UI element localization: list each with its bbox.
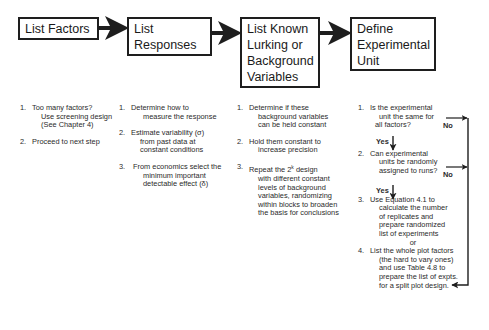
step-text: detectable effect (δ) xyxy=(131,180,234,189)
unit-step-4: 4. List the whole plot factors (the hard… xyxy=(358,247,458,290)
box-experimental-unit: Define Experimental Unit xyxy=(350,17,436,71)
step-number: 3. xyxy=(119,163,125,172)
box-list-responses-line: Responses xyxy=(134,37,205,53)
step-text: can be held constant xyxy=(249,121,357,130)
lurking-steps: 1. Determine if these background variabl… xyxy=(237,104,357,224)
box-list-factors: List Factors xyxy=(18,17,99,40)
step-text: Proceed to next step xyxy=(32,138,120,147)
step-number: 1. xyxy=(358,104,364,113)
step-number: 1. xyxy=(20,104,26,113)
unit-step-3: 3. Use Equation 4.1 to calculate the num… xyxy=(358,196,458,239)
box-lurking-line: Background xyxy=(247,53,313,69)
factors-steps: 1. Too many factors? Use screening desig… xyxy=(20,104,120,152)
no-label-2: No xyxy=(443,171,453,180)
lurking-step-2: 2. Hold them constant to increase precis… xyxy=(237,138,357,155)
responses-step-2: 2. Estimate variability (σ) from past da… xyxy=(119,129,234,155)
step-number: 2. xyxy=(20,138,26,147)
box-unit-line: Unit xyxy=(357,53,429,69)
box-list-responses: List Responses xyxy=(127,17,212,56)
box-list-responses-line: List xyxy=(134,21,205,37)
responses-steps: 1. Determine how to measure the response… xyxy=(119,104,234,195)
no-label-1: No xyxy=(443,122,453,131)
box-lurking-line: Lurking or xyxy=(247,37,313,53)
box-list-factors-label: List Factors xyxy=(25,21,92,38)
step-text: measure the response xyxy=(131,113,234,122)
step-text: for a split plot design. xyxy=(370,282,458,291)
step-text: increase precision xyxy=(249,146,357,155)
box-lurking-line: List Known xyxy=(247,21,313,37)
yes-label-2: Yes xyxy=(376,187,389,196)
factors-step-2: 2. Proceed to next step xyxy=(20,138,120,147)
no-bracket xyxy=(457,118,468,285)
step-text: list of experiments xyxy=(370,230,458,239)
step-number: 2. xyxy=(119,129,125,138)
step-number: 3. xyxy=(237,163,243,172)
responses-step-1: 1. Determine how to measure the response xyxy=(119,104,234,121)
lurking-step-3: 3. Repeat the 2k design with different c… xyxy=(237,163,357,218)
unit-steps: 1. Is the experimental unit the same for… xyxy=(358,104,458,290)
responses-step-3: 3. From economics select the minimum imp… xyxy=(119,163,234,189)
step-text: constant conditions xyxy=(131,146,234,155)
box-lurking-line: Variables xyxy=(247,69,313,85)
step-number: 4. xyxy=(358,247,364,256)
box-lurking-variables: List Known Lurking or Background Variabl… xyxy=(240,17,320,88)
step-number: 2. xyxy=(237,138,243,147)
step-number: 2. xyxy=(358,150,364,159)
step-text: the basis for conclusions xyxy=(249,209,357,218)
step-text: (See Chapter 4) xyxy=(32,121,120,130)
box-unit-line: Define xyxy=(357,21,429,37)
yes-label-1: Yes xyxy=(376,138,389,147)
step-number: 1. xyxy=(237,104,243,113)
box-unit-line: Experimental xyxy=(357,37,429,53)
factors-step-1: 1. Too many factors? Use screening desig… xyxy=(20,104,120,130)
step-number: 1. xyxy=(119,104,125,113)
step-number: 3. xyxy=(358,196,364,205)
lurking-step-1: 1. Determine if these background variabl… xyxy=(237,104,357,130)
